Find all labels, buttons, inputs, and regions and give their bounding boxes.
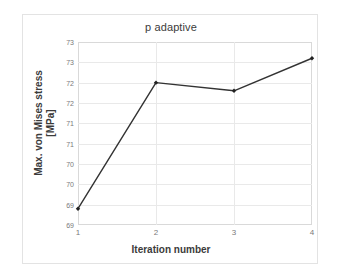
y-tick-label: 72: [50, 100, 74, 107]
y-tick-label: 73: [50, 59, 74, 66]
x-tick-label: 3: [224, 228, 244, 237]
chart-title: p adaptive: [23, 21, 319, 33]
data-point-marker: [310, 56, 314, 60]
y-tick-label: 71: [50, 140, 74, 147]
y-tick-label: 69: [50, 201, 74, 208]
series-polyline: [78, 58, 312, 208]
y-tick-label: 70: [50, 181, 74, 188]
x-tick-label: 4: [302, 228, 322, 237]
chart-card: p adaptive Max. von Mises stress [MPa] 6…: [22, 14, 318, 264]
plot-wrap: 69697070717172727373 1234: [78, 42, 312, 225]
x-tick-label: 2: [146, 228, 166, 237]
x-tick-label: 1: [68, 228, 88, 237]
data-point-marker: [232, 89, 236, 93]
series-markers: [76, 56, 314, 211]
y-tick-label: 71: [50, 120, 74, 127]
y-tick-label: 70: [50, 161, 74, 168]
y-tick-label: 73: [50, 39, 74, 46]
y-tick-label: 72: [50, 79, 74, 86]
x-axis-title: Iteration number: [23, 244, 319, 255]
data-series-line: [78, 42, 312, 225]
